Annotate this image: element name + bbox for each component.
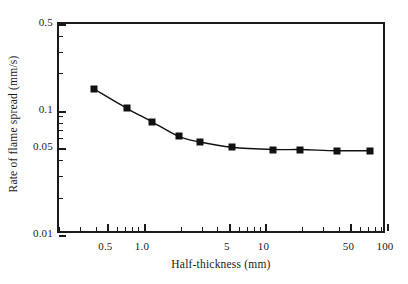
y-tick xyxy=(59,123,63,124)
x-tick-label: 5 xyxy=(224,240,230,252)
x-tick xyxy=(247,227,248,231)
x-tick xyxy=(138,227,139,231)
x-tick xyxy=(260,227,261,231)
x-tick-label: 1.0 xyxy=(135,240,149,252)
x-tick xyxy=(387,224,389,231)
x-tick xyxy=(381,227,382,231)
y-tick-label: 0.05 xyxy=(33,140,53,152)
x-tick xyxy=(80,227,81,231)
y-tick xyxy=(59,52,63,53)
plot-area xyxy=(57,22,385,233)
x-tick-label: 10 xyxy=(258,240,269,252)
y-tick xyxy=(59,116,63,117)
y-tick xyxy=(59,111,66,113)
x-tick xyxy=(202,227,203,231)
y-tick xyxy=(59,73,63,74)
y-tick-label: 0.01 xyxy=(33,227,53,239)
y-tick xyxy=(59,160,63,161)
x-tick xyxy=(181,227,182,231)
x-tick-label: 100 xyxy=(376,240,393,252)
y-tick xyxy=(59,24,66,26)
y-tick xyxy=(59,148,66,150)
x-tick xyxy=(254,227,255,231)
x-tick xyxy=(229,224,231,231)
x-tick xyxy=(302,227,303,231)
x-tick xyxy=(59,227,60,231)
flame-spread-chart: 0.51.051050100 0.50.10.050.01 Half-thick… xyxy=(0,0,408,284)
x-tick xyxy=(144,224,146,231)
x-tick xyxy=(360,227,361,231)
x-tick xyxy=(323,227,324,231)
y-tick xyxy=(59,176,63,177)
y-axis-title: Rate of flame spread (mm/s) xyxy=(7,39,19,209)
x-axis-title: Half-thickness (mm) xyxy=(57,258,385,270)
x-tick-label: 0.5 xyxy=(98,240,112,252)
x-tick xyxy=(125,227,126,231)
y-tick xyxy=(59,130,63,131)
x-tick xyxy=(368,227,369,231)
x-tick xyxy=(375,227,376,231)
x-tick xyxy=(339,227,340,231)
x-tick xyxy=(217,227,218,231)
y-tick xyxy=(59,138,63,139)
x-tick xyxy=(107,224,109,231)
y-tick xyxy=(59,36,63,37)
x-tick xyxy=(132,227,133,231)
y-tick xyxy=(59,235,66,237)
y-tick xyxy=(59,198,63,199)
y-tick-label: 0.5 xyxy=(39,16,53,28)
y-tick-label: 0.1 xyxy=(39,103,53,115)
x-tick xyxy=(350,224,352,231)
x-tick-label: 50 xyxy=(343,240,354,252)
x-tick xyxy=(239,227,240,231)
x-tick xyxy=(96,227,97,231)
x-tick xyxy=(117,227,118,231)
x-tick xyxy=(265,224,267,231)
